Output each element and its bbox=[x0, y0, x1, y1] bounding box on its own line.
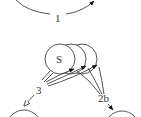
edge-1-right-arc bbox=[66, 1, 94, 14]
edge-1-label: 1 bbox=[55, 12, 61, 24]
edge-2b-arrow bbox=[108, 104, 113, 110]
edge-3-label: 3 bbox=[36, 84, 42, 96]
edge-1-left-arc bbox=[16, 0, 50, 14]
edge-3-stub bbox=[42, 71, 50, 80]
node-bottom-right bbox=[105, 111, 139, 117]
diagram-canvas: 1 S 3 2b bbox=[0, 0, 141, 117]
node-S-label: S bbox=[56, 53, 62, 65]
node-bottom-left bbox=[7, 110, 41, 117]
edge-3-arrow bbox=[24, 95, 34, 106]
edge-1: 1 bbox=[16, 0, 94, 24]
edge-2b-label: 2b bbox=[98, 92, 110, 104]
edge-2b: 2b bbox=[98, 92, 113, 110]
edge-3: 3 bbox=[24, 84, 42, 106]
